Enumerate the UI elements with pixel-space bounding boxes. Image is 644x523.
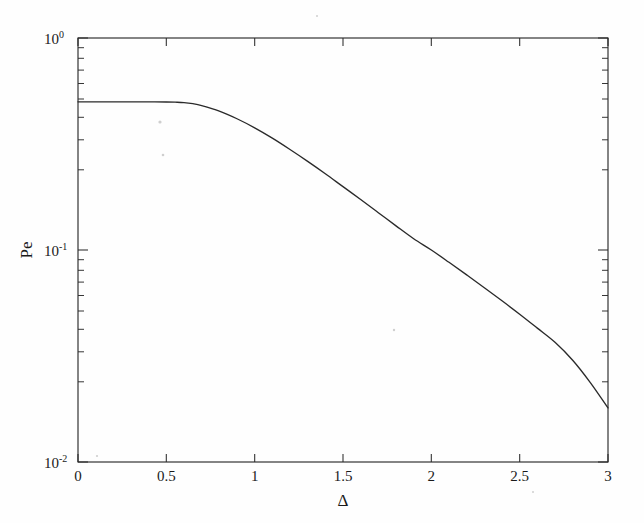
x-tick-label-4: 2	[428, 468, 436, 484]
x-tick-label-6: 3	[604, 468, 612, 484]
y-tick-exponent-2: -2	[59, 453, 67, 464]
x-tick-label-1: 0.5	[157, 468, 176, 484]
x-tick-labels: 0 0.5 1 1.5 2 2.5 3	[74, 468, 612, 484]
y-tick-label-0: 100	[44, 29, 64, 47]
x-tick-label-2: 1	[251, 468, 259, 484]
x-tick-label-5: 2.5	[510, 468, 529, 484]
x-axis-title: Δ	[338, 491, 349, 510]
y-tick-labels: 100 10-1 10-2	[44, 29, 67, 471]
semilog-plot: 0 0.5 1 1.5 2 2.5 3 100 10-1 10-2 Pe Δ	[0, 0, 644, 523]
y-tick-label-2: 10-2	[44, 453, 67, 471]
y-tick-mantissa-0: 10	[44, 31, 59, 47]
scan-artifacts	[96, 15, 534, 493]
data-curve-pe	[78, 102, 608, 408]
figure-canvas: 0 0.5 1 1.5 2 2.5 3 100 10-1 10-2 Pe Δ	[0, 0, 644, 523]
y-tick-label-1: 10-1	[44, 241, 67, 259]
y-tick-mantissa-1: 10	[44, 243, 59, 259]
x-tick-label-3: 1.5	[334, 468, 353, 484]
y-tick-mantissa-2: 10	[44, 455, 59, 471]
y-axis-title: Pe	[17, 242, 36, 259]
y-tick-exponent-0: 0	[59, 29, 64, 40]
y-tick-exponent-1: -1	[59, 241, 67, 252]
x-tick-label-0: 0	[74, 468, 82, 484]
